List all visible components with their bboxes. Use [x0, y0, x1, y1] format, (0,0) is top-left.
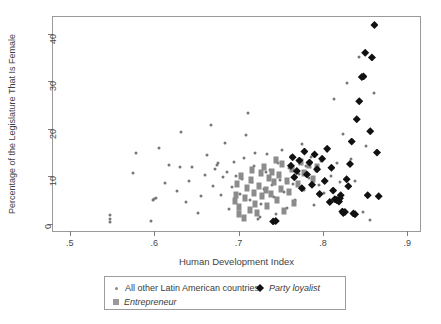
x-axis-tick — [407, 231, 408, 236]
data-point — [132, 172, 135, 175]
data-point — [268, 191, 273, 198]
data-point — [270, 168, 275, 175]
x-axis-title: Human Development Index — [52, 256, 421, 267]
data-point — [292, 199, 297, 206]
data-point — [353, 115, 361, 123]
data-point — [348, 138, 356, 146]
y-axis-tick-label: 0 — [43, 224, 53, 229]
y-axis-tick-label: 30 — [48, 81, 58, 91]
data-point — [242, 157, 245, 160]
data-point — [373, 149, 381, 157]
x-axis-tick-label: .8 — [319, 238, 327, 248]
data-point — [260, 202, 263, 205]
data-point — [108, 214, 111, 217]
data-point — [225, 170, 228, 173]
data-point — [134, 152, 137, 155]
diamond-icon — [256, 284, 264, 292]
data-point — [180, 130, 183, 133]
data-point — [213, 167, 216, 170]
data-point — [249, 177, 254, 184]
data-point — [275, 197, 280, 204]
data-point — [261, 163, 266, 170]
data-point — [364, 191, 372, 199]
data-point — [239, 172, 244, 179]
data-point — [278, 179, 281, 182]
data-point — [354, 179, 357, 182]
data-point — [246, 111, 249, 114]
data-point — [237, 204, 242, 211]
data-point — [178, 165, 181, 168]
data-point — [228, 208, 231, 211]
data-point — [277, 172, 282, 179]
legend-item-all-other: All other Latin American countries — [113, 281, 259, 295]
data-point — [370, 21, 378, 29]
data-point — [251, 189, 256, 196]
data-point — [245, 184, 250, 191]
data-point — [154, 196, 157, 199]
data-point — [241, 215, 246, 222]
data-point — [368, 53, 376, 61]
legend-label-party-loyalist: Party loyalist — [269, 283, 320, 293]
data-point — [258, 170, 263, 177]
data-point — [321, 177, 329, 185]
data-point — [361, 49, 369, 57]
chart-legend: All other Latin American countries Party… — [104, 276, 346, 310]
data-point — [239, 192, 242, 195]
data-point — [272, 179, 277, 186]
data-point — [235, 174, 238, 177]
data-point — [361, 210, 364, 213]
data-point — [206, 154, 209, 157]
data-point — [310, 156, 313, 159]
data-point — [375, 192, 383, 200]
legend-label-entrepreneur: Entrepreneur — [124, 297, 177, 307]
y-axis-tick-label: 40 — [48, 34, 58, 44]
y-axis-title: Percentage of the Legislature That Is Fe… — [6, 16, 18, 232]
data-point — [338, 181, 341, 184]
data-point — [342, 132, 345, 135]
data-point — [234, 180, 239, 187]
data-point — [149, 220, 152, 223]
data-point — [203, 173, 206, 176]
data-point — [373, 92, 376, 95]
data-point — [176, 189, 179, 192]
data-point — [212, 184, 215, 187]
data-point — [366, 127, 374, 135]
y-axis-tick-label: 20 — [48, 129, 58, 139]
data-point — [284, 178, 289, 185]
data-point — [209, 123, 212, 126]
legend-item-entrepreneur: Entrepreneur — [113, 295, 177, 309]
x-axis-tick — [323, 231, 324, 236]
data-point — [281, 148, 284, 151]
data-point — [369, 218, 372, 221]
data-point — [317, 184, 320, 187]
x-axis-tick — [239, 231, 240, 236]
data-point — [300, 142, 303, 145]
data-point — [108, 220, 111, 223]
data-point — [274, 213, 277, 216]
data-point — [108, 217, 111, 220]
legend-item-party-loyalist: Party loyalist — [256, 281, 320, 295]
small-circle-icon — [115, 287, 118, 290]
data-point — [282, 207, 287, 214]
data-point — [358, 56, 361, 59]
data-point — [230, 185, 233, 188]
data-point — [280, 160, 285, 167]
data-point — [234, 192, 239, 199]
data-point — [254, 151, 257, 154]
data-point — [346, 160, 354, 168]
x-axis-tick — [70, 231, 71, 236]
data-point — [344, 182, 352, 190]
data-points-layer — [53, 17, 420, 231]
data-point — [158, 146, 161, 149]
data-point — [199, 195, 202, 198]
y-axis-tick-label: 10 — [48, 176, 58, 186]
data-point — [247, 206, 252, 213]
data-point — [327, 164, 335, 172]
x-axis-tick-label: .6 — [150, 238, 158, 248]
data-point — [164, 181, 167, 184]
data-point — [355, 97, 363, 105]
data-point — [323, 145, 331, 153]
data-point — [300, 148, 308, 156]
data-point — [222, 176, 225, 179]
data-point — [187, 180, 190, 183]
